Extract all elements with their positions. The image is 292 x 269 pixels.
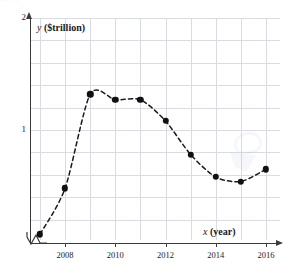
data-points xyxy=(0,0,292,269)
data-point-marker xyxy=(37,231,43,237)
data-point-marker xyxy=(137,97,143,103)
data-point-marker xyxy=(213,174,219,180)
data-point-marker xyxy=(238,178,244,184)
data-point-marker xyxy=(112,97,118,103)
data-point-marker xyxy=(187,151,193,157)
data-point-marker xyxy=(263,166,269,172)
data-point-marker xyxy=(87,91,93,97)
data-point-marker xyxy=(162,118,168,124)
data-point-marker xyxy=(62,185,68,191)
chart-figure: · · · · 2008201020122014201612 y ($trill… xyxy=(0,0,292,269)
